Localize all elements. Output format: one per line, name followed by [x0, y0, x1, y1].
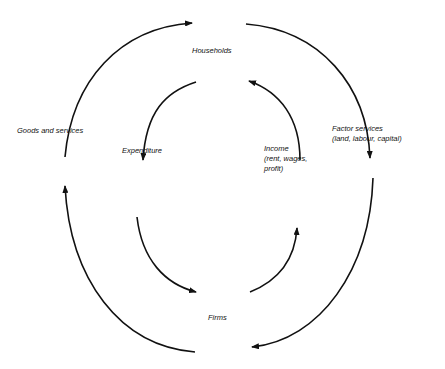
income-detail-1: (rent, wages, — [264, 154, 307, 164]
firms-label: Firms — [208, 313, 227, 323]
factor-services-label: Factor services (land, labour, capital) — [332, 124, 402, 144]
expenditure-label: Expenditure — [122, 146, 162, 156]
outer-arrow-top-left — [65, 23, 192, 157]
outer-arrow-bottom-left — [65, 186, 195, 352]
inner-arrow-bottom-left — [137, 217, 196, 292]
factor-services-detail: (land, labour, capital) — [332, 134, 402, 144]
circular-flow-diagram: Households Goods and services Factor ser… — [0, 0, 445, 369]
outer-arrow-bottom-right — [252, 178, 373, 347]
factor-services-title: Factor services — [332, 124, 402, 134]
income-label: Income (rent, wages, profit) — [264, 144, 307, 174]
income-title: Income — [264, 144, 307, 154]
goods-and-services-label: Goods and services — [17, 126, 83, 136]
households-label: Households — [192, 46, 232, 56]
income-detail-2: profit) — [264, 164, 307, 174]
inner-arrow-bottom-right — [250, 228, 297, 292]
